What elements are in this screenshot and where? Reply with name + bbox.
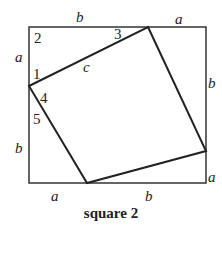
label-top-b: b <box>76 9 84 25</box>
label-hypotenuse-c: c <box>83 59 90 75</box>
caption: square 2 <box>84 205 138 221</box>
label-left-b: b <box>15 140 23 156</box>
angle-label-1: 1 <box>33 66 41 82</box>
label-bottom-b: b <box>145 188 153 204</box>
outer-square <box>29 27 206 183</box>
angle-label-2: 2 <box>34 30 42 46</box>
label-left-a: a <box>15 49 23 65</box>
pythagorean-square-diagram: b a a b b a a b c 2 3 1 4 5 square 2 <box>0 0 222 254</box>
angle-label-4: 4 <box>40 90 48 106</box>
angle-label-3: 3 <box>114 26 122 42</box>
label-bottom-a: a <box>51 188 59 204</box>
inner-tilted-square <box>29 27 206 183</box>
label-top-a: a <box>175 11 183 27</box>
label-right-b: b <box>208 75 216 91</box>
angle-label-5: 5 <box>33 111 41 127</box>
label-right-a: a <box>208 169 216 185</box>
